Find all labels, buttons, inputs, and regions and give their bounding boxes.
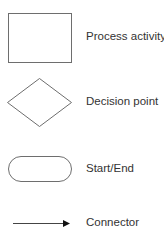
process-rectangle-icon <box>9 14 72 63</box>
decision-point-label: Decision point <box>86 95 158 107</box>
decision-diamond-icon <box>8 79 72 127</box>
connector-label: Connector <box>86 216 139 228</box>
process-activity-label: Process activity <box>86 30 164 42</box>
connector-arrow-icon <box>13 220 70 227</box>
start-end-label: Start/End <box>86 162 134 174</box>
start-end-rounded-icon <box>9 157 72 182</box>
